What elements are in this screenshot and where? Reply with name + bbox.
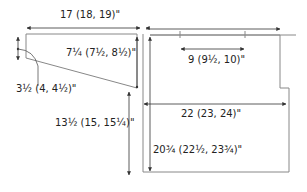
neck-width-label: 9 (9½, 10)" [188,54,245,66]
sleeve-edge-label: 3½ (4, 4½)" [16,83,76,95]
sleeve-edge-leader [18,49,38,86]
body-length-label: 20¾ (22½, 23¾)" [153,144,242,156]
sleeve-width-label: 17 (18, 19)" [60,9,120,21]
sleeve-piece-outline [26,34,137,88]
body-width-label: 22 (23, 24)" [181,108,241,120]
schematic-drawing [0,0,307,192]
sleeve-length-label: 13½ (15, 15¼)" [55,117,135,129]
sleeve-cap-dot [136,86,138,88]
sleeve-cap-height-label: 7¼ (7½, 8½)" [66,47,136,59]
